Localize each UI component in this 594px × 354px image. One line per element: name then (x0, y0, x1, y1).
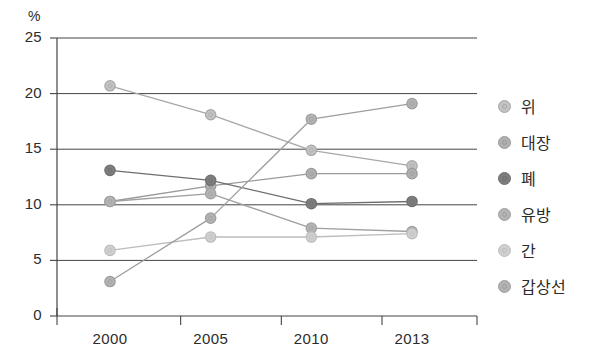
series-line (110, 170, 412, 203)
data-point (407, 196, 417, 206)
legend-item-label: 폐 (521, 166, 536, 190)
legend-marker-icon (498, 100, 511, 113)
legend-marker-icon (498, 172, 511, 185)
series-line (110, 194, 412, 232)
legend-marker-icon (498, 244, 511, 257)
data-point (105, 196, 115, 206)
legend-item: 위 (498, 88, 590, 124)
data-point (306, 232, 316, 242)
data-point (105, 165, 115, 175)
legend-item: 간 (498, 232, 590, 268)
legend-item-label: 위 (521, 94, 536, 118)
legend-marker-icon (498, 208, 511, 221)
data-point (205, 175, 215, 185)
line-chart: % 0510152025 2000200520102013 위대장폐유방간갑상선 (0, 0, 594, 354)
data-point (205, 232, 215, 242)
legend-item: 대장 (498, 124, 590, 160)
legend-item-label: 대장 (521, 130, 551, 154)
data-point (306, 114, 316, 124)
data-point (105, 81, 115, 91)
data-point (407, 98, 417, 108)
data-point (105, 276, 115, 286)
legend-marker-icon (498, 280, 511, 293)
data-point (407, 229, 417, 239)
data-point (306, 145, 316, 155)
data-point (105, 245, 115, 255)
legend-item: 폐 (498, 160, 590, 196)
data-point (306, 198, 316, 208)
data-point (205, 188, 215, 198)
series-line (110, 234, 412, 251)
data-point (306, 168, 316, 178)
legend-item: 갑상선 (498, 268, 590, 304)
legend-item-label: 갑상선 (521, 274, 567, 298)
legend-item: 유방 (498, 196, 590, 232)
series-line (110, 86, 412, 166)
series-line (110, 174, 412, 202)
legend-item-label: 간 (521, 238, 536, 262)
legend-marker-icon (498, 136, 511, 149)
data-point (205, 110, 215, 120)
legend-item-label: 유방 (521, 202, 551, 226)
chart-legend: 위대장폐유방간갑상선 (498, 88, 590, 304)
data-point (205, 213, 215, 223)
data-point (407, 168, 417, 178)
